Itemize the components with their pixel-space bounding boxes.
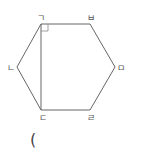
hexagon-diagram: ㄱ ㅂ ㅁ ㄹ ㄷ ㄴ ( — [0, 0, 151, 151]
vertex-label-digeut: ㄷ — [39, 113, 47, 123]
vertex-label-nieun: ㄴ — [7, 63, 15, 73]
right-angle-mark — [41, 24, 48, 31]
hexagon-shape — [17, 24, 115, 110]
vertex-label-bieup: ㅂ — [87, 13, 95, 23]
answer-paren: ( — [30, 130, 36, 149]
vertex-label-mieum: ㅁ — [117, 63, 125, 73]
vertex-label-rieul: ㄹ — [87, 113, 95, 123]
vertex-label-giyeok: ㄱ — [37, 13, 45, 23]
